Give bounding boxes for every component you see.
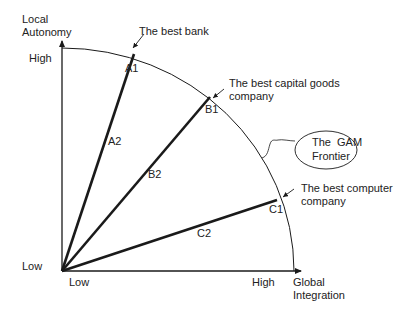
x-axis-label-line1: Global bbox=[293, 276, 325, 288]
annotation-best-bank: The best bank bbox=[139, 25, 209, 37]
frontier-label-line2: Frontier bbox=[312, 150, 350, 162]
y-axis-label-line1: Local bbox=[22, 13, 48, 25]
vector-b-mid-label: B2 bbox=[148, 168, 161, 180]
vector-c-end-label: C1 bbox=[269, 203, 283, 215]
pointer-arrow-c bbox=[283, 189, 294, 197]
vector-c bbox=[62, 200, 277, 271]
x-axis-label-line2: Integration bbox=[293, 289, 345, 301]
annotation-best-capital-goods-line1: The best capital goods bbox=[229, 77, 340, 89]
annotation-best-capital-goods-line2: company bbox=[229, 90, 274, 102]
frontier-label-line1: The GAM bbox=[312, 136, 362, 148]
vector-b-end-label: B1 bbox=[205, 103, 218, 115]
annotation-best-computer-line2: company bbox=[301, 195, 346, 207]
y-high-label: High bbox=[29, 52, 52, 64]
vector-a-mid-label: A2 bbox=[108, 135, 121, 147]
frontier-connector bbox=[262, 140, 295, 158]
x-low-label: Low bbox=[69, 276, 89, 288]
x-high-label: High bbox=[252, 276, 275, 288]
y-low-label: Low bbox=[22, 260, 42, 272]
vector-c-mid-label: C2 bbox=[197, 227, 211, 239]
pointer-arrow-b bbox=[213, 89, 224, 98]
vector-b bbox=[62, 97, 210, 271]
vector-a bbox=[62, 54, 134, 271]
vector-a-end-label: A1 bbox=[125, 62, 138, 74]
y-axis-label-line2: Autonomy bbox=[22, 26, 72, 38]
gam-frontier-diagram: The GAM Frontier Local Autonomy High Low… bbox=[0, 0, 409, 316]
annotation-best-computer-line1: The best computer bbox=[301, 182, 393, 194]
